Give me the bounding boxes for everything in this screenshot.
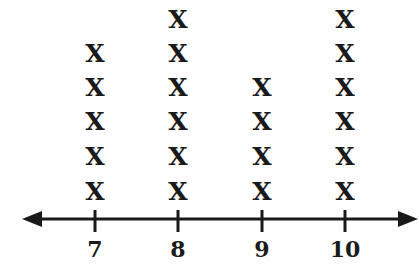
x-mark: X [247,179,277,205]
x-mark: X [80,144,110,170]
x-mark: X [163,179,193,205]
x-mark: X [330,7,360,33]
x-mark: X [330,75,360,101]
right-arrow-icon [398,211,418,227]
x-mark: X [247,75,277,101]
tick-label-10: 10 [325,236,365,262]
x-mark: X [80,179,110,205]
x-mark: X [163,109,193,135]
x-mark: X [330,41,360,67]
tick-label-7: 7 [75,236,115,262]
left-arrow-icon [22,211,42,227]
x-mark: X [330,144,360,170]
x-mark: X [330,179,360,205]
x-mark: X [247,144,277,170]
x-mark: X [163,144,193,170]
x-mark: X [330,109,360,135]
x-mark: X [163,7,193,33]
x-mark: X [247,109,277,135]
tick-label-9: 9 [242,236,282,262]
line-plot: XXXXXXXXXXXXXXXXXXXXX 78910 [0,0,419,268]
x-mark: X [163,41,193,67]
x-mark: X [80,75,110,101]
x-mark: X [80,109,110,135]
x-mark: X [80,41,110,67]
x-mark: X [163,75,193,101]
tick-label-8: 8 [158,236,198,262]
